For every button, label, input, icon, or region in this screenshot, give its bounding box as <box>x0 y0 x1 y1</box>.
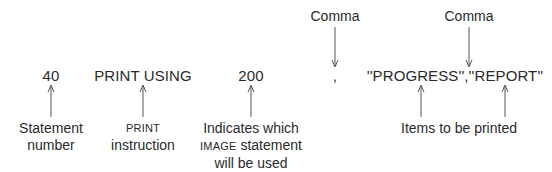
up-arrow-print-instruction <box>140 85 146 117</box>
comma-label-right: Comma <box>444 8 493 25</box>
down-arrow-comma-right <box>466 27 472 67</box>
down-arrow-comma-left <box>332 27 338 67</box>
up-arrow-item-report <box>502 85 508 117</box>
label-image-indicator-line2: IMAGE statement <box>200 137 302 155</box>
label-statement-number: Statement number <box>19 120 83 154</box>
label-statement-number-line2: number <box>19 137 83 154</box>
label-print-instruction: PRINT instruction <box>111 120 175 154</box>
statement-line-number: 40 <box>43 68 60 83</box>
statement-instruction: PRINT USING <box>94 68 192 83</box>
up-arrow-image-ref <box>248 85 254 117</box>
statement-image-ref: 200 <box>238 68 263 83</box>
label-image-indicator-line3: will be used <box>200 155 302 172</box>
up-arrow-item-progress <box>418 85 424 117</box>
label-print-instruction-line1: PRINT <box>111 120 175 137</box>
statement-items: ''PROGRESS'',''REPORT'' <box>367 68 544 83</box>
label-image-keyword: IMAGE <box>200 140 236 152</box>
label-image-indicator-line1: Indicates which <box>200 120 302 137</box>
comma-label-left: Comma <box>310 8 359 25</box>
label-image-indicator: Indicates which IMAGE statement will be … <box>200 120 302 172</box>
statement-comma: , <box>333 68 337 83</box>
up-arrow-statement-number <box>48 85 54 117</box>
label-statement-number-line1: Statement <box>19 120 83 137</box>
label-image-indicator-line2-rest: statement <box>237 137 302 153</box>
label-items-to-be-printed: Items to be printed <box>401 120 517 137</box>
label-print-instruction-line2: instruction <box>111 137 175 154</box>
